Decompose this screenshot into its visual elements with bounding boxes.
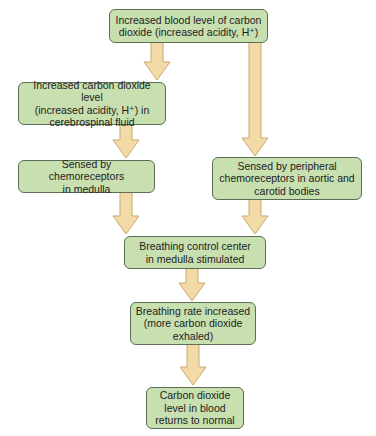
arrow-n5-n6: [179, 268, 205, 301]
node-increased-blood-co2: Increased blood level of carbon dioxide …: [109, 9, 268, 43]
arrows-layer: [0, 0, 376, 436]
node-peripheral-chemoreceptors: Sensed by peripheral chemoreceptors in a…: [212, 157, 362, 200]
arrow-n1-n2: [144, 42, 170, 80]
node-label: Increased carbon dioxide level (increase…: [23, 79, 161, 129]
node-label: Breathing control center in medulla stim…: [139, 240, 250, 265]
arrow-n4-n5: [242, 199, 268, 234]
node-label: Carbon dioxide level in blood returns to…: [155, 389, 234, 427]
node-csf-co2: Increased carbon dioxide level (increase…: [18, 82, 166, 125]
node-label: Breathing rate increased (more carbon di…: [136, 305, 250, 343]
node-breathing-control-center: Breathing control center in medulla stim…: [124, 236, 266, 269]
node-breathing-rate-increased: Breathing rate increased (more carbon di…: [130, 302, 256, 345]
arrow-n3-n5: [113, 192, 139, 234]
node-label: Sensed by chemoreceptors in medulla: [23, 158, 150, 196]
node-co2-returns-normal: Carbon dioxide level in blood returns to…: [146, 387, 244, 429]
arrow-n1-n4: [242, 42, 268, 156]
arrow-n2-n3: [113, 124, 139, 158]
node-label: Increased blood level of carbon dioxide …: [116, 14, 262, 39]
node-label: Sensed by peripheral chemoreceptors in a…: [219, 160, 354, 198]
arrow-n6-n7: [180, 344, 206, 385]
node-medulla-chemoreceptors: Sensed by chemoreceptors in medulla: [18, 160, 155, 193]
